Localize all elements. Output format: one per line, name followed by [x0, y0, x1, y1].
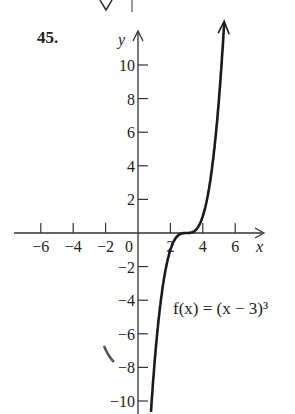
pencil-mark: [104, 346, 114, 362]
y-tick-label: 8: [127, 91, 135, 108]
x-tick-label: −2: [97, 238, 114, 255]
y-tick-label: −2: [118, 259, 135, 276]
y-tick-label: 2: [127, 191, 135, 208]
x-tick-label: −4: [65, 238, 82, 255]
function-label: f(x) = (x − 3)³: [173, 299, 268, 318]
y-tick-label: −4: [118, 292, 135, 309]
y-tick-label: 10: [119, 57, 135, 74]
function-curve: [151, 23, 224, 412]
x-tick-label: −6: [32, 238, 49, 255]
y-tick-label: 4: [127, 158, 135, 175]
x-tick-label: 4: [199, 238, 207, 255]
x-tick-label: 6: [231, 238, 239, 255]
arrow-down-icon: [100, 0, 112, 10]
function-graph: −6−4−20246−10−8−6−4−2246810xyf(x) = (x −…: [0, 0, 295, 414]
x-axis-label: x: [255, 238, 263, 255]
y-tick-label: 6: [127, 124, 135, 141]
y-axis-label: y: [116, 31, 126, 49]
y-tick-label: −10: [110, 393, 135, 410]
y-tick-label: −6: [118, 326, 135, 343]
y-tick-label: −8: [118, 359, 135, 376]
x-tick-label: 0: [125, 238, 133, 255]
